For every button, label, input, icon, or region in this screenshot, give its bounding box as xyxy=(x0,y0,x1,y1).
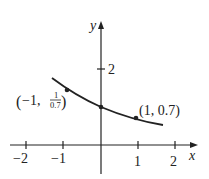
x-tick-label: −1 xyxy=(51,151,66,166)
x-tick-label: −2 xyxy=(13,151,28,166)
y-tick-label: 2 xyxy=(108,62,115,77)
point-1 xyxy=(134,116,139,121)
x-tick-label: 1 xyxy=(134,154,141,169)
left-point-label: ( −1, 1 0.7 ) xyxy=(16,90,66,111)
y-axis-label: y xyxy=(88,18,97,33)
y-axis-arrow-icon xyxy=(98,21,104,29)
svg-text:1: 1 xyxy=(54,90,58,100)
svg-text:0.7: 0.7 xyxy=(50,100,61,110)
svg-text:): ) xyxy=(61,93,66,111)
x-axis-label: x xyxy=(188,148,196,163)
point-y-intercept xyxy=(99,105,104,110)
right-point-label: (1, 0.7) xyxy=(139,103,180,119)
svg-text:−1,: −1, xyxy=(22,93,40,108)
exponential-graph: −2 −1 1 2 2 x y ( −1, 1 0.7 ) (1, 0.7) xyxy=(0,0,209,179)
x-tick-label: 2 xyxy=(170,154,177,169)
point-neg1 xyxy=(65,88,70,93)
svg-text:(: ( xyxy=(16,93,21,111)
